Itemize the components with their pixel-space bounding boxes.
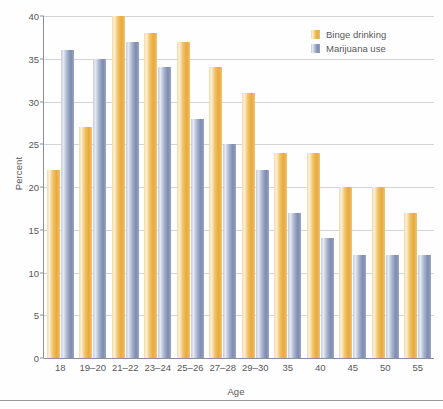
x-axis-tick-labels: 1819–2021–2223–2425–2627–2829–3035404550…	[44, 362, 434, 373]
x-axis-tick-label: 50	[369, 362, 401, 373]
bar	[353, 255, 366, 358]
x-axis-tick-label: 25–26	[174, 362, 206, 373]
bar	[307, 153, 320, 358]
chart-figure: Percent 0510152025303540 1819–2021–2223–…	[0, 0, 443, 409]
bar-group	[47, 16, 74, 358]
bar	[339, 187, 352, 358]
bar-group	[339, 16, 366, 358]
y-axis-tick-label: 5	[34, 310, 39, 321]
y-axis-title: Percent	[13, 134, 24, 214]
legend-label-binge-drinking: Binge drinking	[326, 29, 386, 40]
bar	[404, 213, 417, 358]
bar	[223, 144, 236, 358]
bar-group	[79, 16, 106, 358]
bar-groups	[44, 16, 434, 358]
y-axis-tick-label: 25	[28, 139, 39, 150]
bar	[386, 255, 399, 358]
x-axis-tick-label: 19–20	[77, 362, 109, 373]
bar-group	[144, 16, 171, 358]
bar	[274, 153, 287, 358]
bar	[209, 67, 222, 358]
x-axis-tick-label: 35	[272, 362, 304, 373]
bar	[93, 59, 106, 358]
bar	[321, 238, 334, 358]
chart-legend: Binge drinking Marijuana use	[311, 28, 386, 56]
y-axis-tick-label: 20	[28, 182, 39, 193]
bar	[191, 119, 204, 358]
bar	[177, 42, 190, 358]
bar-group	[209, 16, 236, 358]
y-axis-tick-label: 30	[28, 96, 39, 107]
bar	[418, 255, 431, 358]
bar	[288, 213, 301, 358]
x-axis-title: Age	[36, 386, 436, 397]
legend-label-marijuana-use: Marijuana use	[326, 43, 386, 54]
x-axis-tick-label: 23–24	[142, 362, 174, 373]
bar	[372, 187, 385, 358]
bar-group	[372, 16, 399, 358]
x-axis-tick-label: 40	[304, 362, 336, 373]
bar	[112, 16, 125, 358]
legend-swatch-marijuana-use	[311, 44, 320, 53]
bar	[144, 33, 157, 358]
y-axis-tick-label: 15	[28, 224, 39, 235]
bar	[158, 67, 171, 358]
x-axis-tick-label: 45	[337, 362, 369, 373]
plot-area: 0510152025303540	[44, 16, 434, 358]
y-axis-tick-label: 10	[28, 267, 39, 278]
x-axis-tick-label: 18	[44, 362, 76, 373]
bar	[256, 170, 269, 358]
bar	[79, 127, 92, 358]
y-axis-tick-label: 0	[34, 353, 39, 364]
legend-item-binge-drinking: Binge drinking	[311, 28, 386, 40]
gridline: 0	[44, 358, 434, 359]
x-axis-tick-label: 27–28	[207, 362, 239, 373]
bar-group	[404, 16, 431, 358]
bar-group	[274, 16, 301, 358]
bar-group	[307, 16, 334, 358]
bar-group	[177, 16, 204, 358]
bar-group	[112, 16, 139, 358]
x-axis-tick-label: 21–22	[109, 362, 141, 373]
y-axis-tick-label: 35	[28, 53, 39, 64]
bar	[61, 50, 74, 358]
y-axis-tick-label: 40	[28, 11, 39, 22]
legend-item-marijuana-use: Marijuana use	[311, 42, 386, 54]
bar	[126, 42, 139, 358]
x-axis-tick-label: 55	[402, 362, 434, 373]
bar	[47, 170, 60, 358]
x-axis-tick-label: 29–30	[239, 362, 271, 373]
bottom-divider	[0, 400, 443, 401]
bar-group	[242, 16, 269, 358]
bar	[242, 93, 255, 358]
legend-swatch-binge-drinking	[311, 30, 320, 39]
